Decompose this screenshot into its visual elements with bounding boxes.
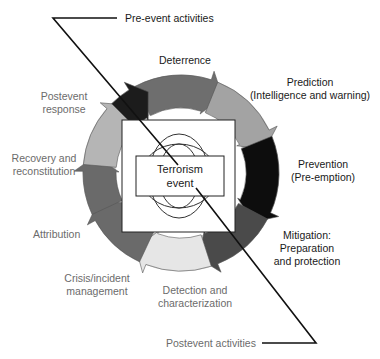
label-attribution: Attribution [33,228,80,241]
pre-event-activities-label: Pre-event activities [125,12,214,25]
label-prevention: Prevention (Pre-emption) [278,158,368,184]
label-mitigation: Mitigation: Preparation and protection [262,229,352,268]
label-recovery: Recovery and reconstitution [4,152,84,178]
center-event-line1: Terrorism [136,162,224,176]
terrorism-cycle-diagram: Terrorism event Pre-event activities Pos… [0,0,380,359]
label-detection: Detection and characterization [150,284,240,310]
label-prediction: Prediction (Intelligence and warning) [245,76,375,102]
label-deterrence: Deterrence [150,54,220,67]
label-crisis-management: Crisis/incident management [52,272,142,298]
center-event-label: Terrorism event [136,156,224,196]
postevent-activities-label: Postevent activities [166,337,256,350]
label-postevent-response: Postevent response [34,90,94,116]
center-event-line2: event [136,176,224,190]
